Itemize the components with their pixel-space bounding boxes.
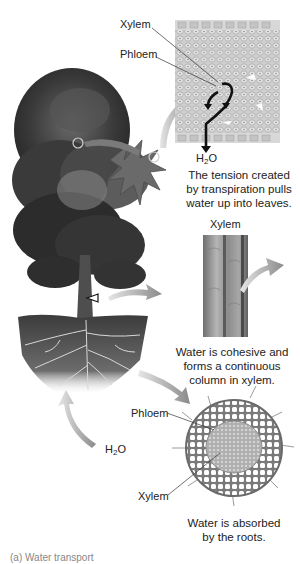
soil-roots	[18, 315, 148, 395]
stem-xylem-label: Xylem	[210, 218, 241, 230]
leaf-phloem-label: Phloem	[120, 48, 157, 60]
figure-caption-cutoff: (a) Water transport	[10, 552, 94, 564]
stem-caption: Water is cohesive and forms a continuous…	[168, 345, 296, 387]
leaf-caption: The tension created by transpiration pul…	[178, 168, 300, 210]
root-cross-section	[172, 386, 294, 506]
leaf-cross-section	[175, 20, 280, 143]
xylem-tubes	[203, 235, 248, 337]
water-flow-arrow-icon	[58, 390, 96, 448]
root-xylem-label: Xylem	[138, 490, 169, 502]
root-caption: Water is absorbed by the roots.	[178, 516, 290, 544]
root-phloem-label: Phloem	[131, 407, 168, 419]
leaf-water-label: H2O	[196, 152, 217, 164]
leaf-xylem-label: Xylem	[120, 18, 151, 30]
soil-water-label: H2O	[105, 443, 126, 455]
